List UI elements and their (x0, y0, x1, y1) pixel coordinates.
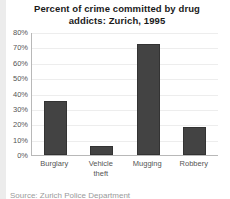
chart-title-line-2: addicts: Zurich, 1995 (14, 15, 220, 27)
y-axis-tick-label: 70% (2, 44, 28, 52)
x-axis-tick-label-line: Burglary (31, 159, 78, 169)
footnote-clip: Source: Zurich Police Department (10, 192, 222, 199)
y-axis-tick-label: 50% (2, 75, 28, 83)
gridline (32, 48, 218, 49)
gridline (32, 79, 218, 80)
bar-vehicle-theft[interactable] (90, 146, 113, 155)
bar-chart: Percent of crime committed by drug addic… (0, 0, 230, 199)
y-axis-tick-label: 20% (2, 121, 28, 129)
x-axis-tick-label: Mugging (124, 159, 171, 169)
x-axis-tick-label: Burglary (31, 159, 78, 169)
gridline (32, 95, 218, 96)
x-axis-tick-label-line: theft (78, 169, 125, 179)
x-axis-tick-label-line: Vehicle (78, 159, 125, 169)
footnote-text: Source: Zurich Police Department (10, 192, 130, 199)
y-axis: 80%70%60%50%40%30%20%10%0% (0, 33, 28, 156)
x-axis: BurglaryVehicletheftMuggingRobbery (31, 159, 218, 189)
x-axis-tick-label-line: Robbery (171, 159, 218, 169)
x-axis-tick-label: Vehicletheft (78, 159, 125, 178)
chart-title: Percent of crime committed by drug addic… (14, 3, 220, 27)
plot-area (31, 33, 218, 156)
bar-robbery[interactable] (183, 127, 206, 155)
y-axis-tick-label: 80% (2, 29, 28, 37)
bar-mugging[interactable] (137, 44, 160, 155)
x-axis-tick-label: Robbery (171, 159, 218, 169)
y-axis-tick-label: 60% (2, 60, 28, 68)
y-axis-tick-label: 40% (2, 91, 28, 99)
gridline (32, 64, 218, 65)
x-axis-tick-label-line: Mugging (124, 159, 171, 169)
y-axis-tick-label: 30% (2, 106, 28, 114)
gridline (32, 33, 218, 34)
y-axis-tick-label: 10% (2, 137, 28, 145)
bar-burglary[interactable] (44, 101, 67, 155)
y-axis-tick-label: 0% (2, 152, 28, 160)
chart-title-line-1: Percent of crime committed by drug (14, 3, 220, 15)
